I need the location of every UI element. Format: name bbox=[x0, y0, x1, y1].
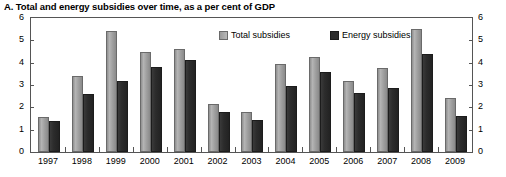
x-axis-tick-mark bbox=[235, 147, 236, 152]
bar-energy-subsidies bbox=[185, 60, 196, 152]
y-axis-tick-mark-left bbox=[31, 63, 34, 64]
x-axis-tick-mark bbox=[370, 147, 371, 152]
bar-energy-subsidies bbox=[456, 116, 467, 152]
bar-energy-subsidies bbox=[117, 81, 128, 152]
y-axis-tick-mark-left bbox=[31, 130, 34, 131]
y-axis-tick-label-right: 5 bbox=[478, 35, 500, 44]
legend-label-total-subsidies: Total subsidies bbox=[231, 30, 290, 40]
bar-group bbox=[66, 18, 100, 152]
y-axis-tick-label-left: 5 bbox=[2, 35, 24, 44]
bar-group bbox=[168, 18, 202, 152]
bar-total-subsidies bbox=[241, 112, 252, 152]
bar-total-subsidies bbox=[174, 49, 185, 152]
bar-energy-subsidies bbox=[354, 93, 365, 152]
bar-total-subsidies bbox=[275, 64, 286, 152]
bar-energy-subsidies bbox=[151, 67, 162, 152]
y-axis-tick-mark-right bbox=[469, 107, 472, 108]
bar-total-subsidies bbox=[343, 81, 354, 152]
y-axis-tick-label-right: 2 bbox=[478, 102, 500, 111]
y-axis-tick-mark-left bbox=[31, 85, 34, 86]
x-axis-tick-mark bbox=[302, 147, 303, 152]
bar-group bbox=[439, 18, 473, 152]
x-axis-tick-mark bbox=[404, 147, 405, 152]
x-axis-tick-mark bbox=[438, 147, 439, 152]
y-axis-tick-label-left: 4 bbox=[2, 58, 24, 67]
bar-energy-subsidies bbox=[320, 72, 331, 152]
x-axis-tick-mark bbox=[99, 147, 100, 152]
bar-total-subsidies bbox=[140, 52, 151, 153]
y-axis-tick-label-left: 2 bbox=[2, 102, 24, 111]
bar-energy-subsidies bbox=[219, 112, 230, 152]
bar-group bbox=[100, 18, 134, 152]
y-axis-tick-label-right: 0 bbox=[478, 147, 500, 156]
chart-title: A. Total and energy subsidies over time,… bbox=[4, 1, 275, 12]
bar-total-subsidies bbox=[445, 98, 456, 152]
bar-total-subsidies bbox=[309, 57, 320, 152]
y-axis-tick-mark-right bbox=[469, 130, 472, 131]
bar-total-subsidies bbox=[106, 31, 117, 152]
y-axis-tick-label-right: 6 bbox=[478, 13, 500, 22]
bar-energy-subsidies bbox=[49, 121, 60, 152]
x-axis-tick-mark bbox=[133, 147, 134, 152]
y-axis-tick-label-right: 4 bbox=[478, 58, 500, 67]
bar-energy-subsidies bbox=[388, 88, 399, 152]
y-axis-tick-mark-left bbox=[31, 40, 34, 41]
x-axis-tick-mark bbox=[167, 147, 168, 152]
y-axis-tick-label-right: 3 bbox=[478, 80, 500, 89]
y-axis-tick-label-left: 6 bbox=[2, 13, 24, 22]
bar-total-subsidies bbox=[208, 104, 219, 152]
bar-group bbox=[32, 18, 66, 152]
y-axis-tick-label-left: 3 bbox=[2, 80, 24, 89]
legend-label-energy-subsidies: Energy subsidies bbox=[342, 30, 411, 40]
bar-total-subsidies bbox=[72, 76, 83, 152]
y-axis-tick-mark-right bbox=[469, 85, 472, 86]
y-axis-tick-label-left: 1 bbox=[2, 125, 24, 134]
legend-swatch-total-subsidies bbox=[219, 31, 228, 40]
y-axis-tick-label-left: 0 bbox=[2, 147, 24, 156]
bar-total-subsidies bbox=[377, 68, 388, 152]
y-axis-tick-mark-right bbox=[469, 63, 472, 64]
x-axis-tick-mark bbox=[336, 147, 337, 152]
legend-item-energy-subsidies: Energy subsidies bbox=[330, 30, 411, 40]
x-axis-tick-mark bbox=[268, 147, 269, 152]
x-axis-tick-mark bbox=[201, 147, 202, 152]
chart-figure: A. Total and energy subsidies over time,… bbox=[0, 0, 506, 177]
bar-energy-subsidies bbox=[286, 86, 297, 152]
y-axis-tick-mark-right bbox=[469, 40, 472, 41]
bar-group bbox=[134, 18, 168, 152]
x-axis-tick-mark bbox=[65, 147, 66, 152]
y-axis-tick-label-right: 1 bbox=[478, 125, 500, 134]
x-axis-tick-label: 2009 bbox=[435, 157, 475, 166]
y-axis-tick-mark-left bbox=[31, 107, 34, 108]
bar-energy-subsidies bbox=[83, 94, 94, 152]
legend-swatch-energy-subsidies bbox=[330, 31, 339, 40]
bar-total-subsidies bbox=[38, 117, 49, 152]
bar-energy-subsidies bbox=[422, 54, 433, 152]
bar-total-subsidies bbox=[411, 29, 422, 152]
bar-energy-subsidies bbox=[252, 120, 263, 152]
legend-item-total-subsidies: Total subsidies bbox=[219, 30, 290, 40]
